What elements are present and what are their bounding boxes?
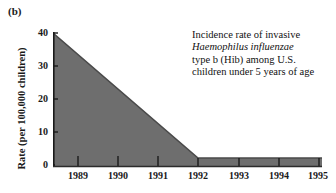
x-tick-label-1993: 1993 — [217, 170, 261, 181]
y-axis-tick-labels: 40 30 20 10 0 — [18, 0, 48, 193]
x-tick-label-1994: 1994 — [257, 170, 301, 181]
y-tick-label-40: 40 — [22, 28, 48, 38]
figure-panel: (b) Rate (per 100,000 children) 40 30 20… — [0, 0, 336, 193]
x-tick-label-1990: 1990 — [96, 170, 140, 181]
y-tick-label-30: 30 — [22, 61, 48, 71]
x-tick-label-1995: 1995 — [296, 170, 336, 181]
y-tick-label-20: 20 — [22, 94, 48, 104]
x-tick-label-1992: 1992 — [176, 170, 220, 181]
x-tick-label-1991: 1991 — [136, 170, 180, 181]
annotation-line-2: Haemophilus influenzae — [192, 41, 336, 53]
chart-annotation-text: Incidence rate of invasive Haemophilus i… — [192, 29, 336, 79]
x-axis-tick-labels: 1989 1990 1991 1992 1993 1994 1995 — [0, 170, 336, 190]
x-tick-label-1989: 1989 — [56, 170, 100, 181]
y-tick-label-0: 0 — [22, 160, 48, 170]
y-tick-label-10: 10 — [22, 127, 48, 137]
annotation-line-3: type b (Hib) among U.S. — [192, 54, 336, 66]
annotation-line-4: children under 5 years of age — [192, 66, 336, 78]
annotation-line-1: Incidence rate of invasive — [192, 29, 336, 41]
